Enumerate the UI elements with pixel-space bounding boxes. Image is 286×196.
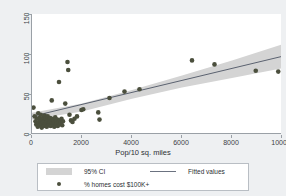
data-point xyxy=(253,69,258,74)
x-axis-tick-mark xyxy=(131,135,132,138)
data-point xyxy=(276,69,281,74)
data-point xyxy=(49,98,54,103)
data-point xyxy=(137,87,142,92)
x-axis-tick-label: 8000 xyxy=(223,139,239,146)
data-point xyxy=(96,110,101,115)
x-axis-tick-mark xyxy=(231,135,232,138)
legend-key-fitted-line xyxy=(150,171,176,172)
y-axis-tick-mark xyxy=(28,54,31,55)
x-axis-tick-mark xyxy=(281,135,282,138)
data-point xyxy=(66,68,71,73)
data-point xyxy=(67,113,72,118)
ci-band-95 xyxy=(32,44,281,119)
legend-row-bottom: % homes cost $100K+ xyxy=(38,178,250,191)
data-point xyxy=(60,123,65,128)
x-axis-tick-mark xyxy=(81,135,82,138)
plot-area xyxy=(31,14,281,134)
x-axis-label: Pop/10 sq. miles xyxy=(0,148,286,157)
legend-label-ci: 95% CI xyxy=(84,165,105,178)
data-point xyxy=(97,117,102,122)
data-point xyxy=(212,62,217,67)
chart-legend: 95% CI Fitted values % homes cost $100K+ xyxy=(37,163,249,191)
legend-label-homes: % homes cost $100K+ xyxy=(84,178,149,191)
x-axis-tick-label: 10000 xyxy=(271,139,286,146)
plot-canvas xyxy=(32,14,281,133)
x-axis-tick-label: 2000 xyxy=(73,139,89,146)
x-axis-tick-label: 4000 xyxy=(123,139,139,146)
legend-key-marker-dot xyxy=(57,182,61,186)
data-point xyxy=(122,89,127,94)
x-axis-tick-label: 6000 xyxy=(173,139,189,146)
legend-row-top: 95% CI Fitted values xyxy=(38,165,250,178)
data-point xyxy=(107,96,112,101)
data-point xyxy=(65,60,70,65)
data-point xyxy=(81,107,86,112)
legend-label-fitted: Fitted values xyxy=(188,165,225,178)
data-point xyxy=(57,80,62,85)
fitted-values-line xyxy=(32,56,281,116)
data-point xyxy=(32,105,36,110)
data-point xyxy=(63,101,68,106)
data-point xyxy=(190,58,195,63)
x-axis-tick-mark xyxy=(181,135,182,138)
x-axis-tick-mark xyxy=(31,135,32,138)
data-point xyxy=(61,119,66,124)
scatter-plot-svg xyxy=(32,14,281,133)
y-axis-tick-mark xyxy=(28,94,31,95)
y-axis-tick-mark xyxy=(28,14,31,15)
data-point xyxy=(75,114,80,119)
legend-key-ci-band xyxy=(46,168,72,175)
x-axis-tick-label: 0 xyxy=(29,139,33,146)
figure: 050100150 0200040006000800010000 Pop/10 … xyxy=(0,0,286,196)
